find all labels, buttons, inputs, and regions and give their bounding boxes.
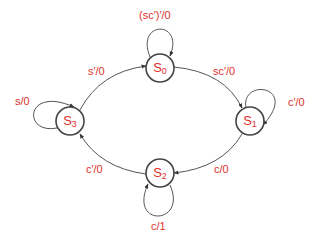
state-s1: S1 bbox=[243, 114, 257, 129]
edge-s1-s2 bbox=[174, 134, 242, 173]
label-s3-s0: s′/0 bbox=[88, 66, 105, 77]
state-s2: S2 bbox=[153, 166, 167, 181]
label-s1-s2: c/0 bbox=[214, 164, 229, 175]
label-s0-self: (sc′)′/0 bbox=[139, 10, 171, 21]
label-s3-self: s/0 bbox=[15, 96, 30, 107]
label-s2-self: c/1 bbox=[151, 221, 166, 232]
label-s1-self: c′/0 bbox=[288, 97, 305, 108]
label-s0-s1: sc′/0 bbox=[213, 66, 235, 77]
self-loop-s0 bbox=[147, 29, 173, 57]
state-s3: S3 bbox=[63, 114, 77, 129]
state-diagram bbox=[0, 0, 321, 245]
label-s2-s3: c′/0 bbox=[86, 164, 103, 175]
self-loop-s2 bbox=[144, 184, 174, 216]
state-s0: S0 bbox=[153, 61, 167, 76]
